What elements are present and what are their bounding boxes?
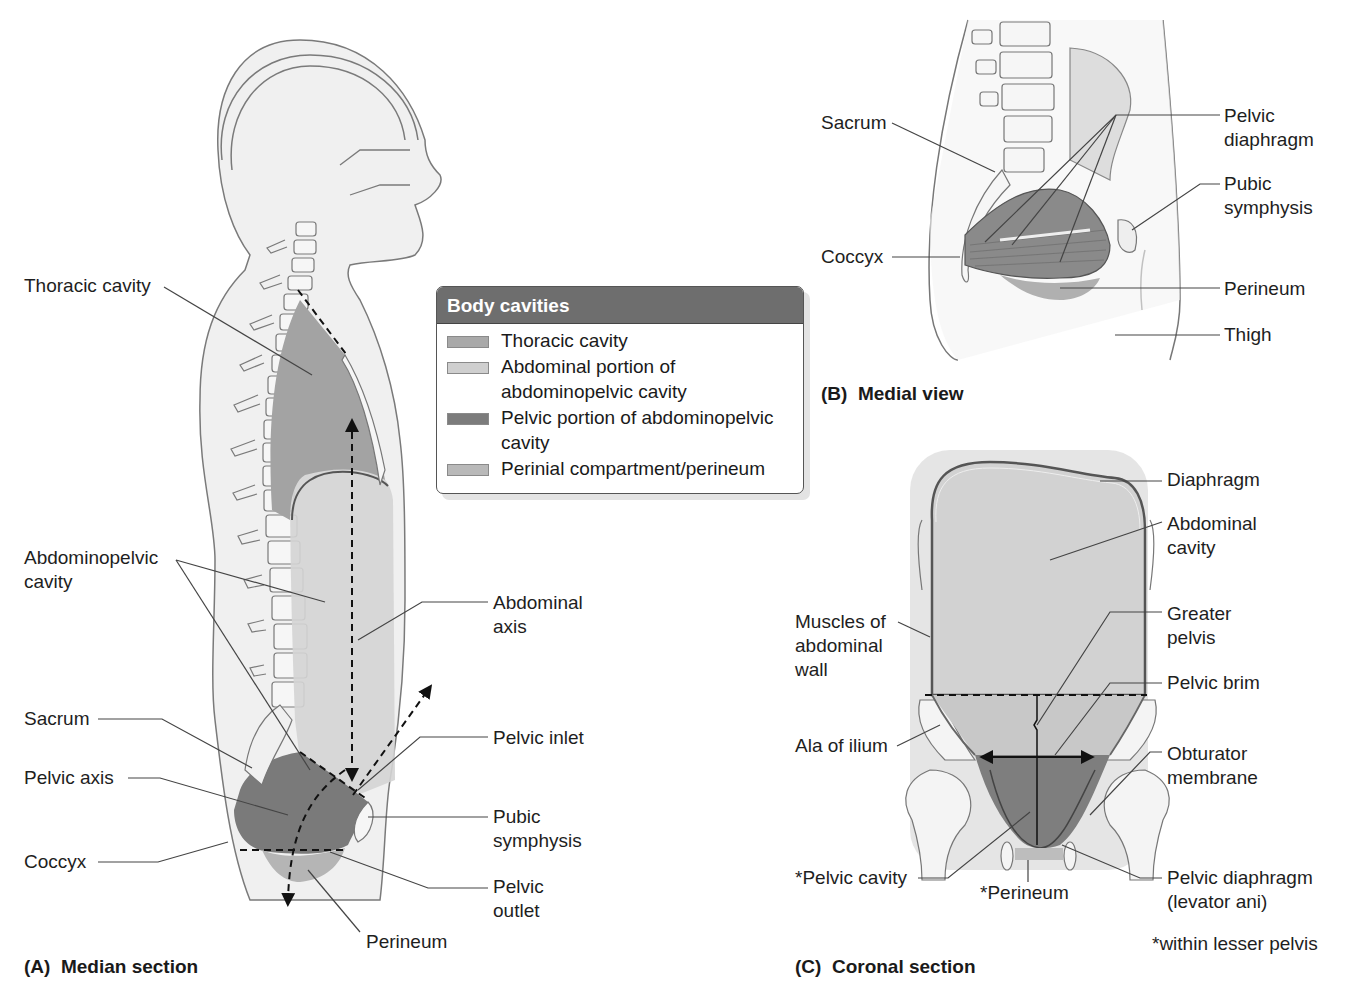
label-sacrum-b: Sacrum xyxy=(821,111,886,135)
label-pelvic-diaphragm-b: Pelvic diaphragm xyxy=(1224,104,1314,152)
label-coccyx-a: Coccyx xyxy=(24,850,86,874)
anatomy-illustration xyxy=(0,0,1348,999)
coronal-section-figure xyxy=(897,450,1169,882)
median-section-figure xyxy=(98,40,488,932)
label-obturator-membrane: Obturator membrane xyxy=(1167,742,1258,790)
swatch-thoracic-icon xyxy=(447,336,489,348)
legend-label: Abdominal portion of abdominopelvic cavi… xyxy=(501,354,687,405)
body-cavities-legend: Body cavities Thoracic cavity Abdominal … xyxy=(436,286,804,494)
label-pelvic-inlet: Pelvic inlet xyxy=(493,726,584,750)
panel-title-a: (A) Median section xyxy=(24,955,198,979)
label-muscles-abdominal-wall: Muscles of abdominal wall xyxy=(795,610,886,682)
label-abdominopelvic-cavity: Abdominopelvic cavity xyxy=(24,546,158,594)
label-diaphragm: Diaphragm xyxy=(1167,468,1260,492)
swatch-pelvic-icon xyxy=(447,413,489,425)
label-pelvic-axis: Pelvic axis xyxy=(24,766,114,790)
label-pelvic-brim: Pelvic brim xyxy=(1167,671,1260,695)
footnote-lesser-pelvis: *within lesser pelvis xyxy=(1152,932,1318,956)
swatch-perineum-icon xyxy=(447,464,489,476)
legend-label: Thoracic cavity xyxy=(501,328,628,354)
label-abdominal-axis: Abdominal axis xyxy=(493,591,583,639)
label-ala-of-ilium: Ala of ilium xyxy=(795,734,888,758)
legend-label: Pelvic portion of abdominopelvic cavity xyxy=(501,405,774,456)
abdominal-cavity-region xyxy=(290,468,395,801)
panel-title-c: (C) Coronal section xyxy=(795,955,976,979)
legend-item-thoracic: Thoracic cavity xyxy=(447,328,803,354)
label-pubic-symphysis-b: Pubic symphysis xyxy=(1224,172,1313,220)
label-perineum-a: Perineum xyxy=(366,930,447,954)
legend-item-pelvic: Pelvic portion of abdominopelvic cavity xyxy=(447,405,803,456)
label-abdominal-cavity: Abdominal cavity xyxy=(1167,512,1257,560)
label-greater-pelvis: Greater pelvis xyxy=(1167,602,1231,650)
label-coccyx-b: Coccyx xyxy=(821,245,883,269)
legend-label: Perinial compartment/perineum xyxy=(501,456,765,482)
label-thigh: Thigh xyxy=(1224,323,1272,347)
label-pelvic-outlet: Pelvic outlet xyxy=(493,875,544,923)
label-perineum-c: *Perineum xyxy=(980,881,1069,905)
label-pubic-symphysis-a: Pubic symphysis xyxy=(493,805,582,853)
legend-item-perineum: Perinial compartment/perineum xyxy=(447,456,803,482)
label-thoracic-cavity: Thoracic cavity xyxy=(24,274,151,298)
panel-title-b: (B) Medial view xyxy=(821,382,964,406)
medial-view-figure xyxy=(892,20,1220,360)
swatch-abdominal-icon xyxy=(447,362,489,374)
abdominal-cavity-c xyxy=(932,462,1145,695)
legend-item-abdominal: Abdominal portion of abdominopelvic cavi… xyxy=(447,354,803,405)
label-pelvic-cavity: *Pelvic cavity xyxy=(795,866,907,890)
label-perineum-b: Perineum xyxy=(1224,277,1305,301)
label-pelvic-diaphragm-c: Pelvic diaphragm (levator ani) xyxy=(1167,866,1313,914)
legend-title: Body cavities xyxy=(437,287,803,324)
label-sacrum-a: Sacrum xyxy=(24,707,89,731)
